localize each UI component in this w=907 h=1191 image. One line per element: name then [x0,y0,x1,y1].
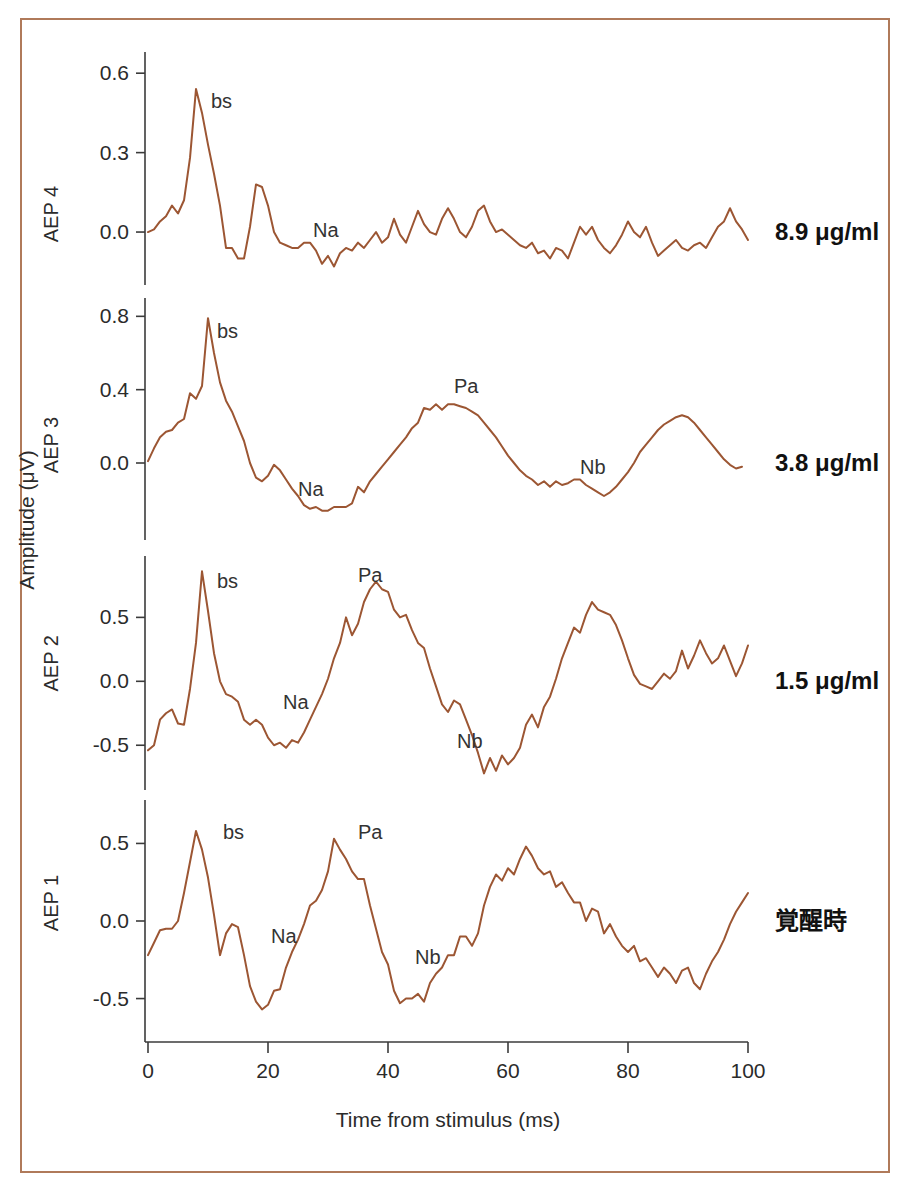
panel-aep-3: 0.80.40.0AEP 3bsNaPaNb3.8 μg/ml [40,298,879,540]
x-axis: 020406080100Time from stimulus (ms) [142,1042,765,1131]
peak-label-na: Na [271,925,297,947]
y-tick-label: 0.8 [100,304,129,327]
dose-label: 3.8 μg/ml [775,449,879,476]
x-tick-label: 20 [256,1059,279,1082]
chart-canvas: 0.60.30.0AEP 4bsNa8.9 μg/ml0.80.40.0AEP … [0,0,907,1191]
waveform-trace [148,318,742,511]
peak-label-pa: Pa [454,375,479,397]
y-tick-label: 0.3 [100,141,129,164]
peak-label-na: Na [283,691,309,713]
peak-label-bs: bs [223,821,244,843]
peak-label-nb: Nb [415,946,441,968]
y-tick-label: 0.5 [100,831,129,854]
peak-label-bs: bs [211,90,232,112]
y-tick-label: 0.0 [100,451,129,474]
panel-aep-4: 0.60.30.0AEP 4bsNa8.9 μg/ml [40,52,879,285]
dose-label: 覚醒時 [775,907,847,934]
peak-label-na: Na [313,219,339,241]
y-tick-label: 0.6 [100,61,129,84]
panel-aep-1: 0.50.0-0.5AEP 1bsNaPaNb覚醒時 [40,800,847,1042]
y-axis-title: Amplitude (μV) [15,450,38,589]
panel-aep-2: 0.50.0-0.5AEP 2bsNaPaNb1.5 μg/ml [40,556,879,790]
peak-label-bs: bs [217,570,238,592]
panel-name-label: AEP 1 [40,875,62,931]
peak-label-pa: Pa [358,821,383,843]
dose-label: 8.9 μg/ml [775,218,879,245]
y-tick-label: 0.0 [100,909,129,932]
panel-name-label: AEP 4 [40,186,62,242]
y-tick-label: -0.5 [93,987,129,1010]
waveform-trace [148,89,748,266]
y-tick-label: 0.5 [100,605,129,628]
panel-name-label: AEP 3 [40,417,62,473]
dose-label: 1.5 μg/ml [775,667,879,694]
y-tick-label: 0.0 [100,669,129,692]
aep-waveform-chart: 0.60.30.0AEP 4bsNa8.9 μg/ml0.80.40.0AEP … [0,0,907,1191]
peak-label-pa: Pa [358,564,383,586]
x-tick-label: 0 [142,1059,154,1082]
x-tick-label: 60 [496,1059,519,1082]
waveform-trace [148,571,748,773]
y-tick-label: 0.4 [100,378,130,401]
x-tick-label: 80 [616,1059,639,1082]
x-axis-title: Time from stimulus (ms) [336,1108,560,1131]
peak-label-nb: Nb [457,730,483,752]
waveform-trace [148,831,748,1009]
peak-label-nb: Nb [580,456,606,478]
y-tick-label: 0.0 [100,220,129,243]
x-tick-label: 40 [376,1059,399,1082]
panel-name-label: AEP 2 [40,635,62,691]
peak-label-na: Na [298,478,324,500]
x-tick-label: 100 [730,1059,765,1082]
y-tick-label: -0.5 [93,733,129,756]
peak-label-bs: bs [217,320,238,342]
